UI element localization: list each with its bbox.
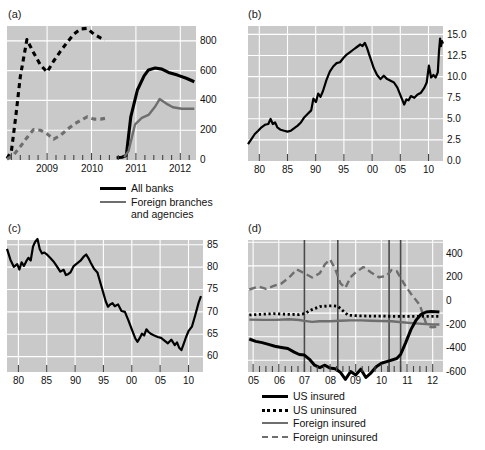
panel-c-xtick-10: 10 (168, 376, 209, 386)
legend-item-foreign-insured: Foreign insured (262, 417, 378, 430)
panel-d-event-lines (304, 240, 400, 372)
panel-c-xticks-marks (18, 365, 188, 372)
panel-b-series-line (248, 39, 443, 145)
panel-b-label: (b) (248, 9, 261, 20)
panel-a-gridlines (7, 26, 196, 160)
panel-d-ytick-neg200: -200 (446, 320, 466, 330)
panel-d-ytick-200: 200 (446, 272, 463, 282)
panel-d-xtick-12: 12 (412, 376, 453, 386)
panel-d-gridlines (248, 240, 443, 372)
series-foreign-dashed (7, 117, 105, 160)
panel-a-plot-area (7, 26, 196, 160)
panel-c-gridlines (7, 240, 203, 372)
legend-item-us-insured: US insured (262, 390, 378, 403)
legend-label-foreign-insured: Foreign insured (293, 417, 366, 430)
legend-label-all-banks: All banks (131, 182, 174, 195)
panel-a: (a) (0, 0, 240, 210)
panel-d: (d) (242, 210, 485, 450)
panel-c-label: (c) (8, 223, 21, 234)
panel-b-ytick-0: 0.0 (447, 156, 461, 166)
panel-b-ytick-75: 7.5 (447, 93, 461, 103)
legend-key-us-insured-icon (262, 390, 288, 403)
panel-d-plot-area (248, 240, 443, 372)
legend-label-us-uninsured: US uninsured (293, 404, 357, 417)
panel-c-ytick-80: 80 (207, 262, 218, 272)
panel-d-label: (d) (248, 223, 261, 234)
panel-b-ytick-100: 10.0 (447, 72, 466, 82)
panel-d-ytick-0: 0 (446, 296, 452, 306)
panel-a-series (7, 28, 194, 159)
legend-key-foreign-uninsured-icon (262, 431, 288, 444)
series-all-banks-solid (117, 68, 195, 158)
legend-item-foreign-uninsured: Foreign uninsured (262, 431, 378, 444)
panel-d-series (249, 260, 439, 380)
legend-key-all-banks-icon (100, 182, 126, 195)
panel-b-gridlines (248, 26, 443, 161)
panel-d-ytick-400: 400 (446, 249, 463, 259)
panel-a-xtick-2009: 2009 (27, 164, 67, 174)
panel-c-chart (7, 240, 203, 372)
panel-c-ytick-75: 75 (207, 284, 218, 294)
panel-b-xticks-marks (259, 154, 428, 161)
panel-c-ytick-60: 60 (207, 351, 218, 361)
panel-b-chart (248, 26, 443, 161)
panel-a-chart (7, 26, 196, 160)
panel-d-legend: US insured US uninsured Foreign insured … (262, 390, 378, 444)
legend-label-us-insured: US insured (293, 390, 345, 403)
legend-key-foreign-insured-icon (262, 417, 288, 430)
panel-a-ytick-400: 400 (200, 95, 217, 105)
series-us-uninsured (249, 306, 439, 317)
legend-item-us-uninsured: US uninsured (262, 404, 378, 417)
panel-b-ytick-125: 12.5 (447, 51, 466, 61)
panel-a-xtick-2012: 2012 (160, 164, 200, 174)
panel-b-ytick-25: 2.5 (447, 135, 461, 145)
legend-key-foreign-branches-icon (100, 196, 126, 209)
panel-c-plot-area (7, 240, 203, 372)
panel-d-ytick-neg400: -400 (446, 343, 466, 353)
panel-a-ytick-800: 800 (200, 36, 217, 46)
panel-c-ytick-70: 70 (207, 307, 218, 317)
panel-a-label: (a) (8, 9, 21, 20)
panel-c-ytick-85: 85 (207, 240, 218, 250)
legend-item-all-banks: All banks (100, 182, 213, 195)
panel-b-ytick-150: 15.0 (447, 30, 466, 40)
panel-c: (c) (0, 210, 240, 450)
panel-b-xtick-10: 10 (408, 165, 449, 175)
panel-b: (b) (242, 0, 485, 210)
panel-d-chart (248, 240, 443, 372)
panel-a-ytick-200: 200 (200, 125, 217, 135)
legend-key-us-uninsured-icon (262, 404, 288, 417)
panel-a-ytick-600: 600 (200, 66, 217, 76)
panel-c-ytick-65: 65 (207, 329, 218, 339)
series-foreign-uninsured (249, 260, 439, 328)
panel-b-ytick-50: 5.0 (447, 114, 461, 124)
panel-a-ytick-0: 0 (200, 155, 206, 165)
panel-c-series-line (7, 239, 201, 350)
panel-a-xtick-2010: 2010 (72, 164, 112, 174)
series-foreign-solid (124, 99, 194, 157)
panel-a-xticks-marks (11, 153, 189, 160)
series-foreign-insured (249, 319, 439, 324)
legend-label-foreign-uninsured: Foreign uninsured (293, 431, 378, 444)
panel-b-plot-area (248, 26, 443, 161)
panel-a-xtick-2011: 2011 (116, 164, 156, 174)
panel-d-xticks-marks (253, 364, 433, 372)
